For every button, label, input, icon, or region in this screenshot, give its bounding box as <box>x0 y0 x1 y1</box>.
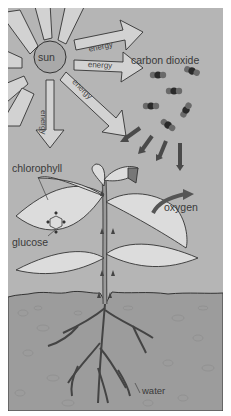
soil <box>8 291 223 411</box>
energy-label-2: energy <box>88 61 113 70</box>
oxygen-label: oxygen <box>164 202 198 213</box>
sun-label: sun <box>38 52 55 63</box>
carbon-dioxide-arrows <box>126 128 180 166</box>
water-label: water <box>142 386 165 396</box>
energy-label-4: energy <box>39 110 47 134</box>
glucose-label: glucose <box>12 237 48 248</box>
carbon-dioxide-label: carbon dioxide <box>131 55 199 66</box>
chlorophyll-label: chlorophyll <box>12 163 62 174</box>
plant-stem <box>104 178 105 304</box>
carbon-dioxide-molecules <box>143 65 201 133</box>
diagram-panel: sun energy energy energy energy carbon d… <box>8 8 223 411</box>
